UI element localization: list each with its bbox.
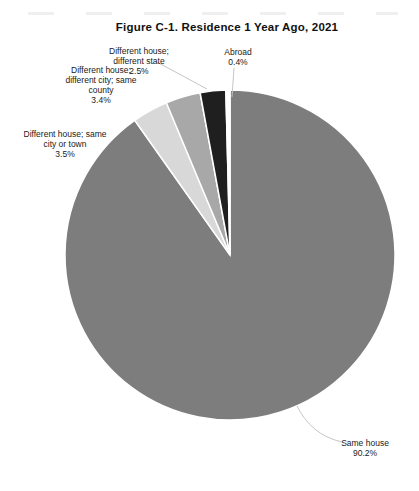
- label-line: Abroad: [224, 47, 251, 57]
- label-abroad: Abroad 0.4%: [224, 47, 251, 67]
- label-value: 2.5%: [109, 66, 169, 76]
- label-value: 3.5%: [24, 149, 107, 159]
- pie-chart: [0, 0, 419, 491]
- label-line: Same house: [341, 438, 389, 448]
- label-line: city or town: [24, 139, 107, 149]
- label-value: 90.2%: [341, 448, 389, 458]
- leader-line-same-house: [297, 406, 342, 442]
- label-line: different city; same: [65, 75, 136, 85]
- label-different-house-same-city-or-town: Different house; same city or town 3.5%: [24, 129, 107, 159]
- label-line: Different house;: [109, 46, 169, 56]
- figure-c1-pie-chart: Figure C-1. Residence 1 Year Ago, 2021 D…: [0, 0, 419, 491]
- label-value: 0.4%: [224, 57, 251, 67]
- label-different-house-different-state: Different house; different state 2.5%: [109, 46, 169, 76]
- label-line: different state: [109, 56, 169, 66]
- pie-slices: [65, 90, 395, 420]
- label-same-house: Same house 90.2%: [341, 438, 389, 458]
- label-line: county: [65, 85, 136, 95]
- label-value: 3.4%: [65, 95, 136, 105]
- label-line: Different house; same: [24, 129, 107, 139]
